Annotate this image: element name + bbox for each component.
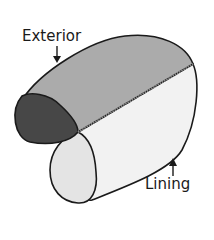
exterior-arrow-icon: [53, 46, 61, 63]
lining-label: Lining: [145, 177, 190, 192]
exterior-label: Exterior: [22, 29, 81, 44]
